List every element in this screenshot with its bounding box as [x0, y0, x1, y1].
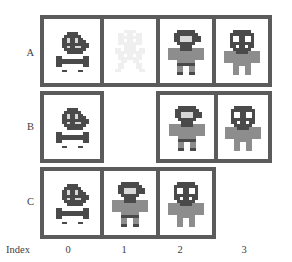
cell-c-0[interactable] [44, 171, 100, 235]
cell-b-0[interactable] [44, 95, 100, 159]
cell-a-2[interactable] [156, 19, 212, 83]
axis-tick-1: 1 [114, 245, 134, 256]
cell-b-2[interactable] [160, 95, 214, 159]
axis-tick-2: 2 [170, 245, 190, 256]
group-box-c-0[interactable] [40, 167, 216, 239]
axis-tick-0: 0 [58, 245, 78, 256]
row-label-b: B [8, 122, 34, 133]
group-box-b-1[interactable] [156, 91, 272, 163]
cell-b-3[interactable] [214, 95, 268, 159]
sprite-dark-helmet-skull [51, 179, 94, 227]
sprite-gray-robot-eyes [218, 27, 266, 75]
cell-c-1[interactable] [100, 171, 156, 235]
cell-a-1[interactable] [100, 19, 156, 83]
axis-label-index: Index [6, 245, 30, 256]
row-label-a: A [8, 48, 34, 59]
sprite-gray-robot-eyes [219, 103, 267, 151]
group-box-a-0[interactable] [40, 15, 272, 87]
sprite-pale-creature [106, 27, 154, 75]
figure-canvas: A B C Index 0 1 2 3 [0, 0, 292, 262]
row-label-c: C [8, 197, 34, 208]
sprite-dark-helmet-skull [51, 27, 94, 75]
sprite-dark-helmet-skull [51, 103, 94, 151]
sprite-gray-robot-eyes [162, 179, 210, 227]
cell-a-0[interactable] [44, 19, 100, 83]
cell-c-2[interactable] [156, 171, 212, 235]
sprite-gray-humanoid-hat [106, 179, 154, 227]
sprite-gray-humanoid-hat [163, 103, 211, 151]
cell-a-3[interactable] [212, 19, 268, 83]
axis-tick-3: 3 [234, 245, 254, 256]
group-box-b-0[interactable] [40, 91, 104, 163]
sprite-gray-humanoid-hat [162, 27, 210, 75]
